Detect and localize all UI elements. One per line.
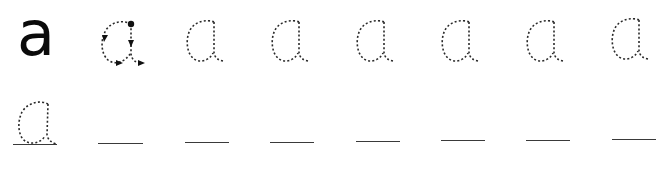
baseline bbox=[13, 144, 57, 145]
tracing-letter-a-on-baseline bbox=[14, 100, 64, 150]
tracing-letter-a bbox=[353, 18, 403, 68]
handwriting-worksheet: a bbox=[0, 0, 660, 175]
writing-line[interactable] bbox=[98, 143, 143, 144]
writing-line[interactable] bbox=[185, 142, 229, 143]
writing-line[interactable] bbox=[356, 141, 400, 142]
stroke-direction-guide-a bbox=[98, 18, 148, 70]
writing-line[interactable] bbox=[441, 140, 485, 141]
arrow-icon bbox=[116, 60, 123, 66]
model-letter-a: a bbox=[10, 0, 62, 74]
writing-line[interactable] bbox=[526, 140, 570, 141]
tracing-letter-a bbox=[608, 16, 658, 66]
tracing-letter-a bbox=[268, 18, 318, 68]
writing-line[interactable] bbox=[270, 142, 314, 143]
tracing-letter-a bbox=[438, 18, 488, 68]
arrow-icon bbox=[138, 60, 145, 66]
writing-line[interactable] bbox=[612, 139, 656, 140]
start-dot-icon bbox=[128, 21, 134, 27]
arrow-icon bbox=[128, 40, 134, 47]
tracing-letter-a bbox=[183, 18, 233, 68]
tracing-letter-a bbox=[523, 18, 573, 68]
